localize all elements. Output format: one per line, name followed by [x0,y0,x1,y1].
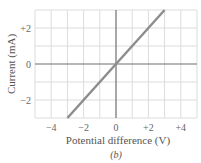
x-tick-label: +2 [143,122,154,133]
y-tick-label: 0 [26,59,31,70]
x-axis-label: Potential difference (V) [66,134,171,147]
iv-chart: −4−20+2+4 −20+2 Potential difference (V)… [0,0,201,163]
x-tick-label: −2 [78,122,89,133]
x-tick-label: −4 [46,122,57,133]
x-tick-labels: −4−20+2+4 [46,122,186,133]
y-tick-labels: −20+2 [20,23,31,106]
y-axis-label: Current (mA) [5,34,18,95]
x-tick-label: 0 [114,122,119,133]
y-tick-label: +2 [20,23,31,34]
x-tick-label: +4 [175,122,186,133]
figure-caption: (b) [110,149,122,161]
y-tick-label: −2 [20,95,31,106]
